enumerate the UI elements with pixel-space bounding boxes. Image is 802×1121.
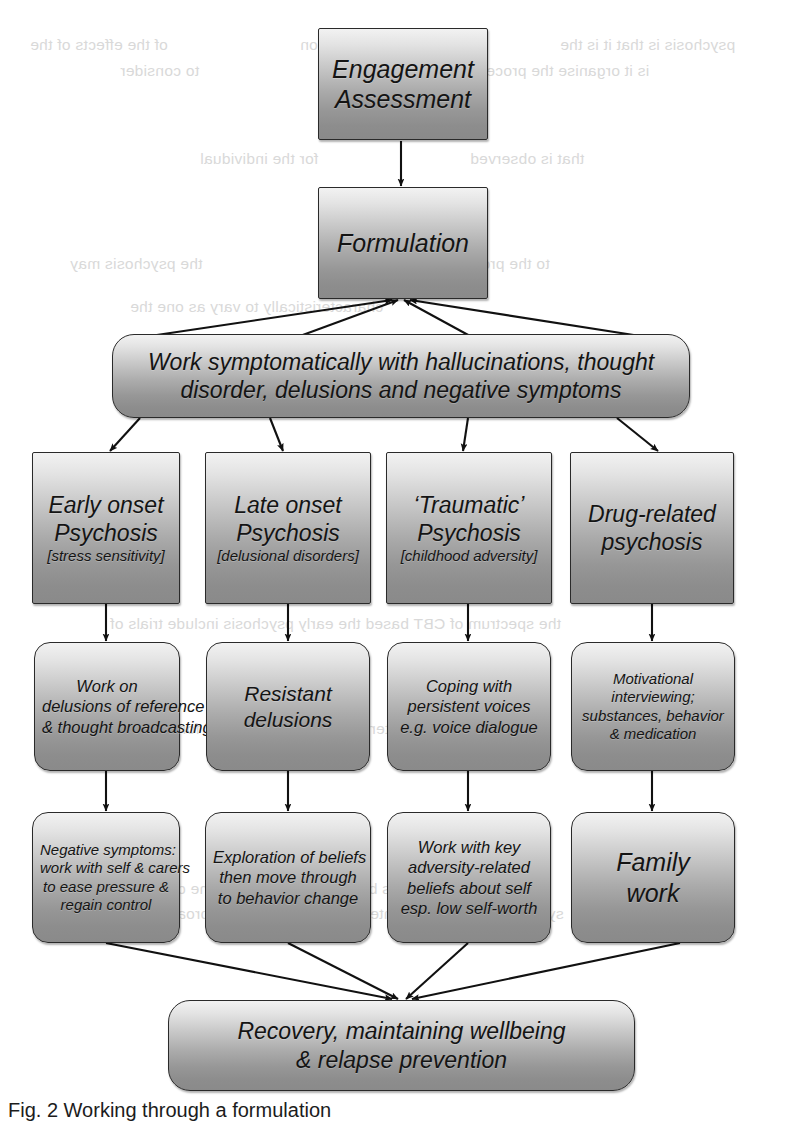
node-engagement-assessment-lines: Engagement Assessment (326, 54, 480, 115)
showthrough-line: is it organise the process (470, 62, 649, 80)
connector-symptomatic-formulation-d (410, 300, 640, 336)
showthrough-line: the psychosis may (70, 255, 203, 273)
node-exploration-of-beliefs[interactable]: Exploration of beliefs then move through… (205, 812, 371, 943)
node-formulation-lines: Formulation (326, 228, 480, 259)
node-drug-related-psychosis[interactable]: Drug-related psychosis (570, 452, 734, 604)
node-family-work-lines: Family work (579, 847, 727, 908)
text-line: Recovery, maintaining wellbeing (176, 1017, 627, 1045)
node-work-symptomatically-lines: Work symptomatically with hallucinations… (120, 348, 682, 404)
text-line: beliefs about self (395, 878, 543, 898)
node-late-onset-psychosis-lines: Late onset Psychosis [delusional disorde… (213, 491, 363, 565)
node-early-onset-psychosis[interactable]: Early onset Psychosis [stress sensitivit… (32, 452, 180, 604)
text-line: Resistant (214, 681, 362, 707)
flowchart-canvas: of the effects of theand early intervent… (0, 0, 802, 1121)
node-motivational-interviewing[interactable]: Motivational interviewing; substances, b… (571, 642, 735, 771)
showthrough-line: psychosis is that it is the (560, 36, 735, 54)
node-negative-symptoms[interactable]: Negative symptoms: work with self & care… (32, 812, 180, 943)
node-early-onset-psychosis-lines: Early onset Psychosis [stress sensitivit… (40, 491, 172, 565)
node-traumatic-psychosis-lines: ‘Traumatic’ Psychosis [childhood adversi… (394, 491, 544, 565)
text-line: to behavior change (213, 888, 363, 908)
node-work-delusions-reference[interactable]: Work on delusions of reference & thought… (34, 642, 180, 771)
text-subnote: [childhood adversity] (394, 547, 544, 565)
figure-caption: Fig. 2 Working through a formulation (8, 1099, 331, 1121)
text-line: Psychosis (394, 519, 544, 547)
text-line: Work symptomatically with hallucinations… (120, 348, 682, 376)
text-line: delusions of reference (42, 696, 172, 716)
text-line: delusions (214, 707, 362, 733)
text-line: Family (579, 847, 727, 878)
text-line: Formulation (326, 228, 480, 259)
text-line: work with self & carers (40, 859, 172, 877)
text-line: work (579, 878, 727, 909)
node-resistant-delusions[interactable]: Resistant delusions (206, 642, 370, 771)
node-adversity-related-beliefs-lines: Work with key adversity-related beliefs … (395, 837, 543, 918)
showthrough-line: for the individual (200, 150, 318, 168)
connector-symptomatic-early (110, 418, 140, 451)
text-line: persistent voices (395, 696, 543, 716)
text-line: & relapse prevention (176, 1046, 627, 1074)
node-recovery-lines: Recovery, maintaining wellbeing & relaps… (176, 1017, 627, 1073)
text-line: Work on (42, 676, 172, 696)
node-drug-related-psychosis-lines: Drug-related psychosis (578, 500, 726, 556)
text-line: then move through (213, 867, 363, 887)
text-line: Late onset (213, 491, 363, 519)
text-line: substances, behavior (579, 707, 727, 725)
text-line: regain control (40, 896, 172, 914)
showthrough-line: to consider (120, 62, 199, 80)
node-recovery-relapse-prevention[interactable]: Recovery, maintaining wellbeing & relaps… (168, 1000, 635, 1091)
connector-next-recovery-early (106, 943, 392, 999)
node-motivational-interviewing-lines: Motivational interviewing; substances, b… (579, 670, 727, 743)
text-line: interviewing; (579, 688, 727, 706)
text-subnote: [stress sensitivity] (40, 547, 172, 565)
node-work-delusions-reference-lines: Work on delusions of reference & thought… (42, 676, 172, 736)
text-line: Motivational (579, 670, 727, 688)
node-formulation[interactable]: Formulation (318, 187, 488, 299)
text-line: Psychosis (40, 519, 172, 547)
text-line: Drug-related (578, 500, 726, 528)
text-line: to ease pressure & (40, 878, 172, 896)
node-work-symptomatically[interactable]: Work symptomatically with hallucinations… (112, 334, 690, 418)
showthrough-line: that is observed (470, 150, 584, 168)
text-line: e.g. voice dialogue (395, 717, 543, 737)
text-subnote: [delusional disorders] (213, 547, 363, 565)
node-coping-persistent-voices-lines: Coping with persistent voices e.g. voice… (395, 676, 543, 736)
text-line: Psychosis (213, 519, 363, 547)
node-exploration-of-beliefs-lines: Exploration of beliefs then move through… (213, 847, 363, 907)
text-line: esp. low self-worth (395, 898, 543, 918)
connector-symptomatic-drug (617, 418, 658, 451)
connector-symptomatic-late (270, 418, 283, 451)
showthrough-line: characteristically to vary as one the (130, 298, 383, 316)
node-traumatic-psychosis[interactable]: ‘Traumatic’ Psychosis [childhood adversi… (386, 452, 552, 604)
node-coping-persistent-voices[interactable]: Coping with persistent voices e.g. voice… (387, 642, 551, 771)
text-line: Engagement (326, 54, 480, 85)
showthrough-line: the spectrum of CBT based the early psyc… (110, 615, 561, 633)
node-adversity-related-beliefs[interactable]: Work with key adversity-related beliefs … (387, 812, 551, 943)
text-line: Work with key (395, 837, 543, 857)
text-line: psychosis (578, 528, 726, 556)
text-line: Negative symptoms: (40, 841, 172, 859)
text-line: & thought broadcasting (42, 717, 172, 737)
node-family-work[interactable]: Family work (571, 812, 735, 943)
node-resistant-delusions-lines: Resistant delusions (214, 681, 362, 732)
connector-next-recovery-traumatic (406, 943, 468, 999)
node-late-onset-psychosis[interactable]: Late onset Psychosis [delusional disorde… (205, 452, 371, 604)
node-engagement-assessment[interactable]: Engagement Assessment (318, 28, 488, 140)
showthrough-line: of the effects of the (30, 36, 168, 54)
connector-symptomatic-traumatic (463, 418, 468, 451)
connector-symptomatic-formulation-c (404, 300, 470, 336)
text-line: Exploration of beliefs (213, 847, 363, 867)
text-line: & medication (579, 725, 727, 743)
text-line: Assessment (326, 84, 480, 115)
connector-next-recovery-drug (412, 943, 680, 999)
node-negative-symptoms-lines: Negative symptoms: work with self & care… (40, 841, 172, 914)
text-line: Early onset (40, 491, 172, 519)
text-line: disorder, delusions and negative symptom… (120, 376, 682, 404)
text-line: Coping with (395, 676, 543, 696)
text-line: adversity-related (395, 857, 543, 877)
connector-next-recovery-late (288, 943, 398, 999)
text-line: ‘Traumatic’ (394, 491, 544, 519)
